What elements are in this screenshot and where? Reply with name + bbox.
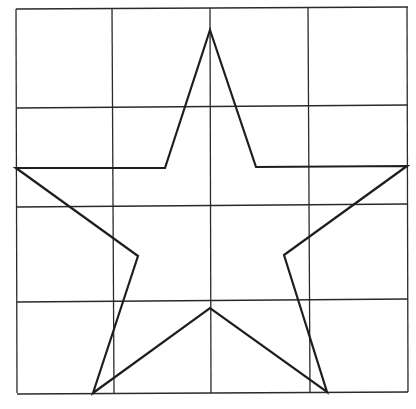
star-grid-diagram	[0, 0, 416, 409]
